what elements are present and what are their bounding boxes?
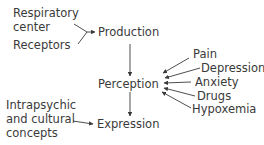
node-label-line: Respiratory [13,6,79,20]
node-label-line: center [13,20,79,34]
node-perception: Perception [98,77,159,91]
node-expression: Expression [97,117,159,131]
edge-anxiety-perception [164,82,191,83]
edge-pain-perception [163,58,189,73]
node-label-line: concepts [6,126,76,140]
node-pain: Pain [193,47,217,61]
edge-drugs-perception [164,88,195,96]
node-label-line: and cultural [6,112,76,126]
node-receptors: Receptors [13,38,71,52]
node-intrapsychic-cultural: Intrapsychic and cultural concepts [6,98,76,140]
node-hypoxemia: Hypoxemia [192,102,256,116]
node-drugs: Drugs [197,89,231,103]
node-depression: Depression [201,61,264,75]
node-anxiety: Anxiety [195,75,239,89]
node-production: Production [98,25,159,39]
edge-hypoxemia-perception [162,92,191,108]
node-respiratory-center: Respiratory center [13,6,79,34]
edge-receptors-production [78,32,87,44]
node-label-line: Intrapsychic [6,98,76,112]
